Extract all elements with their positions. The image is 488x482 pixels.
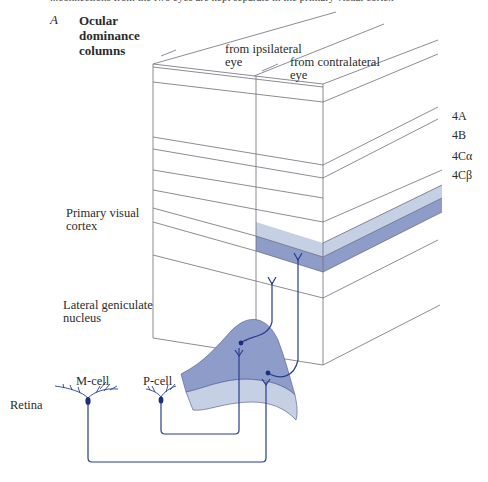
label-cortex: cortex [66, 219, 97, 233]
layer-label-4c-alpha: 4Cα [452, 149, 472, 163]
cut-off-caption: ...connections from the two eyes are kep… [50, 0, 440, 3]
p-cell-soma [159, 396, 164, 403]
label-lateral-geniculate: Lateral geniculate [63, 298, 153, 312]
label-p-cell: P-cell [143, 374, 172, 388]
layer-label-4b: 4B [452, 128, 466, 142]
label-primary-visual: Primary visual [66, 206, 139, 220]
layer-label-4a: 4A [452, 109, 467, 123]
label-ipsilateral-eye: eye [225, 55, 242, 69]
lgn-cell-dark [239, 341, 244, 346]
layer-label-4c-beta: 4Cβ [452, 168, 472, 182]
label-contralateral-eye: eye [290, 68, 307, 82]
label-retina: Retina [10, 398, 43, 412]
panel-letter: A [50, 13, 58, 27]
label-from-contralateral: from contralateral [290, 55, 380, 69]
label-m-cell: M-cell [76, 374, 109, 388]
ocular-dominance-diagram [0, 0, 488, 482]
m-cell-soma [85, 397, 90, 405]
panel-title: Ocular dominance columns [79, 13, 159, 58]
terminal-4cbeta [268, 277, 276, 284]
label-nucleus: nucleus [63, 311, 101, 325]
label-from-ipsilateral: from ipsilateral [225, 42, 302, 56]
lgn-cell-light [266, 371, 271, 376]
